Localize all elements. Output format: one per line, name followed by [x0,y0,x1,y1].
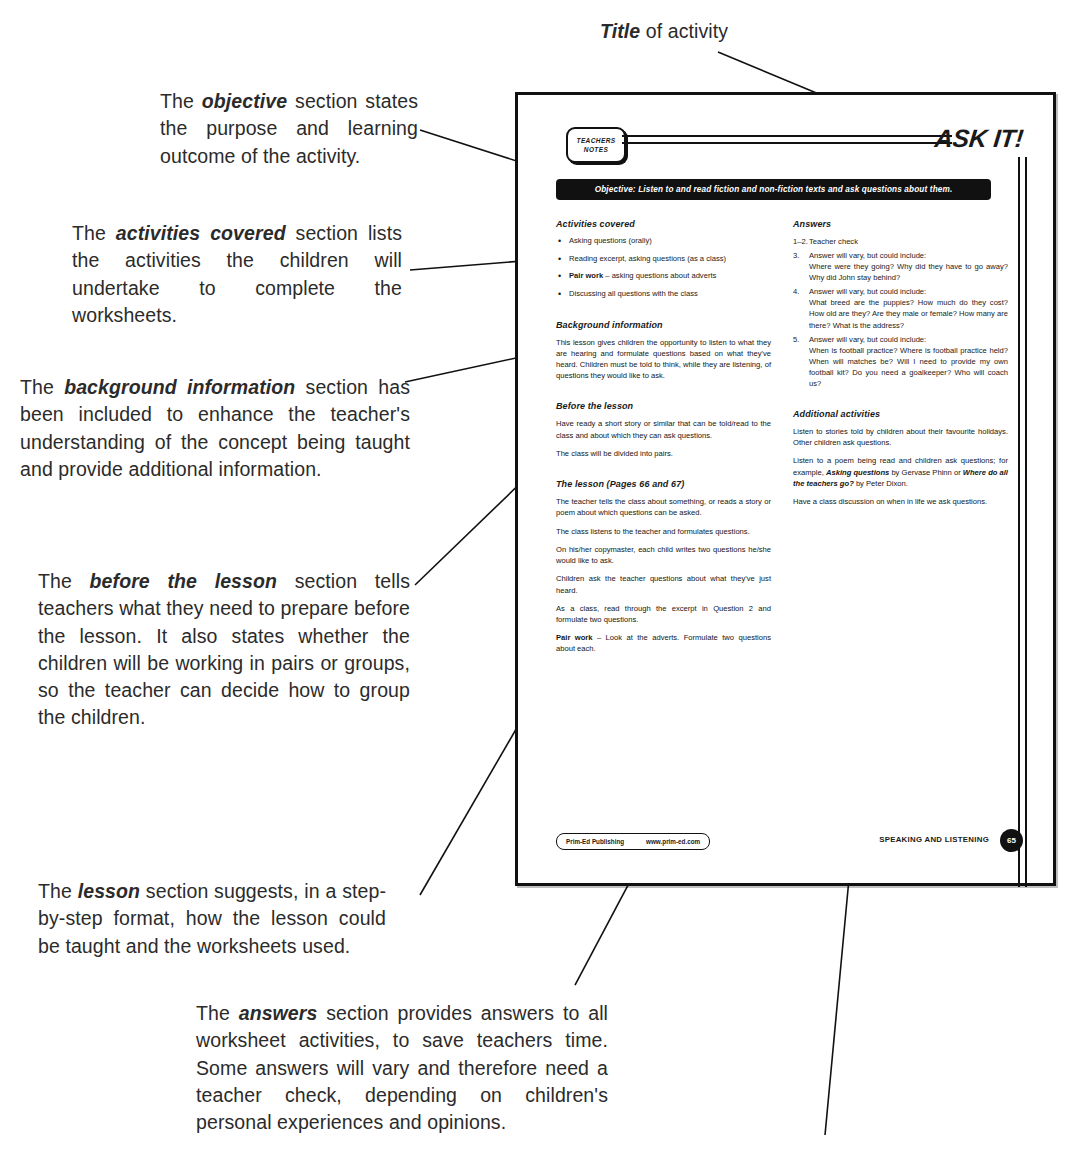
background-information-text: This lesson gives children the opportuni… [556,337,771,382]
activities-covered-heading: Activities covered [556,219,771,229]
answer-item: 5.Answer will vary, but could include:Wh… [793,334,1008,389]
worksheet-page: TEACHERS NOTES ASK IT! Objective: Listen… [515,92,1056,886]
answer-item: 4.Answer will vary, but could include:Wh… [793,286,1008,330]
annotation-answers: The answers section provides answers to … [196,1000,608,1136]
the-lesson-body: The teacher tells the class about someth… [556,496,771,655]
teachers-notes-line2: NOTES [584,145,608,154]
teachers-notes-badge: TEACHERS NOTES [566,127,626,163]
publisher-website: www.prim-ed.com [646,838,700,845]
annotation-lesson: The lesson section suggests, in a step-b… [38,878,386,960]
answer-lead: Answer will vary, but could include: [809,286,1008,297]
answers-list: 1–2.Teacher check3.Answer will vary, but… [793,236,1008,389]
activities-list-item: Reading excerpt, asking questions (as a … [556,254,771,265]
answer-item: 1–2.Teacher check [793,236,1008,247]
the-lesson-paragraph: As a class, read through the excerpt in … [556,603,771,625]
answer-examples: What breed are the puppies? How much do … [809,297,1008,330]
answer-examples: Where were they going? Why did they have… [809,261,1008,283]
worksheet-title: ASK IT! [933,124,1024,153]
annotation-background-information: The background information section has b… [20,374,410,483]
answer-number: 3. [793,250,799,261]
the-lesson-paragraph: Children ask the teacher questions about… [556,573,771,595]
annotation-before-the-lesson: The before the lesson section tells teac… [38,568,410,732]
the-lesson-paragraph: The class listens to the teacher and for… [556,526,771,537]
page-number-badge: 65 [1000,829,1023,852]
additional-activities-paragraph: Have a class discussion on when in life … [793,496,1008,507]
answer-number: 4. [793,286,799,297]
additional-activities-paragraph: Listen to a poem being read and children… [793,455,1008,489]
the-lesson-paragraph: On his/her copymaster, each child writes… [556,544,771,566]
teachers-notes-line1: TEACHERS [577,136,616,145]
answer-item: 3.Answer will vary, but could include:Wh… [793,250,1008,283]
activities-list-item: Discussing all questions with the class [556,289,771,300]
background-information-heading: Background information [556,320,771,330]
answer-lead: Teacher check [809,236,1008,247]
additional-activities-paragraph: Listen to stories told by children about… [793,426,1008,448]
answer-lead: Answer will vary, but could include: [809,334,1008,345]
additional-activities-body: Listen to stories told by children about… [793,426,1008,507]
strand-label: SPEAKING AND LISTENING [879,835,989,844]
publisher-name: Prim-Ed Publishing [566,838,624,845]
publisher-pill: Prim-Ed Publishing www.prim-ed.com [556,833,710,850]
right-column: Answers 1–2.Teacher check3.Answer will v… [793,219,1008,662]
before-the-lesson-heading: Before the lesson [556,401,771,411]
worksheet-columns: Activities covered Asking questions (ora… [556,219,1023,662]
activities-list-item: Asking questions (orally) [556,236,771,247]
the-lesson-paragraph: Pair work – Look at the adverts. Formula… [556,632,771,654]
before-the-lesson-paragraph: Have ready a short story or similar that… [556,418,771,440]
answer-lead: Answer will vary, but could include: [809,250,1008,261]
objective-bar: Objective: Listen to and read fiction an… [556,179,991,200]
left-column: Activities covered Asking questions (ora… [556,219,771,662]
activities-list: Asking questions (orally)Reading excerpt… [556,236,771,300]
before-the-lesson-paragraph: The class will be divided into pairs. [556,448,771,459]
annotation-objective: The objective section states the purpose… [160,88,418,170]
the-lesson-paragraph: The teacher tells the class about someth… [556,496,771,518]
header-rules [622,135,952,151]
annotation-activities-covered: The activities covered section lists the… [72,220,402,329]
activities-list-item: Pair work – asking questions about adver… [556,271,771,282]
additional-activities-heading: Additional activities [793,409,1008,419]
before-the-lesson-body: Have ready a short story or similar that… [556,418,771,459]
annotation-title: Title of activity [600,18,800,45]
answer-number: 1–2. [793,236,808,247]
worksheet-footer: Prim-Ed Publishing www.prim-ed.com SPEAK… [556,833,1023,855]
the-lesson-heading: The lesson (Pages 66 and 67) [556,479,771,489]
answer-number: 5. [793,334,799,345]
answers-heading: Answers [793,219,1008,229]
answer-examples: When is football practice? Where is foot… [809,345,1008,389]
